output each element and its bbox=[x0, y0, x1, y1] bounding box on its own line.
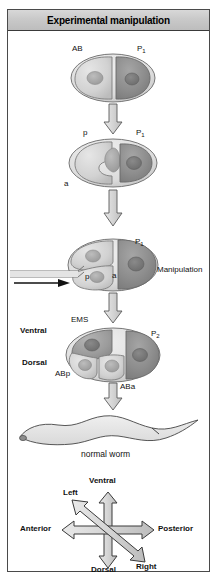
label-p1: P1 bbox=[137, 45, 146, 53]
p2-nucleus bbox=[133, 349, 148, 362]
ems-nucleus bbox=[85, 339, 100, 351]
label-p1-stage3: P1 bbox=[135, 238, 144, 246]
axis-compass bbox=[62, 492, 154, 568]
injection-arrow bbox=[14, 279, 70, 287]
abp-nucleus bbox=[79, 360, 92, 371]
label-ab: AB bbox=[72, 45, 83, 53]
label-aba: ABa bbox=[120, 383, 135, 391]
worm-body bbox=[20, 416, 198, 445]
aba-nucleus bbox=[105, 360, 119, 372]
label-dorsal-stage4: Dorsal bbox=[22, 359, 47, 367]
label-a-anterior-stage2: a bbox=[64, 180, 68, 188]
label-a-anterior-stage3: a bbox=[112, 272, 116, 280]
label-manipulation: Manipulation bbox=[157, 266, 202, 274]
axis-label-anterior: Anterior bbox=[20, 525, 51, 533]
stage-two-cell-embryo bbox=[71, 54, 155, 102]
normal-worm-illustration bbox=[20, 416, 199, 445]
label-p1-stage2-sub: 1 bbox=[141, 132, 144, 138]
label-p2-sub: 2 bbox=[156, 333, 159, 339]
diagram-canvas bbox=[0, 0, 218, 581]
ab-daughter-lower-nucleus bbox=[90, 272, 104, 283]
label-abp: ABp bbox=[55, 370, 70, 378]
label-p1-stage3-sub: 1 bbox=[140, 241, 143, 247]
stage-manipulation bbox=[10, 239, 158, 291]
label-ems: EMS bbox=[71, 316, 88, 324]
arrow-stage3-to-stage4 bbox=[104, 293, 122, 323]
ab-daughter-upper-nucleus bbox=[86, 250, 101, 262]
axis-label-dorsal: Dorsal bbox=[91, 566, 116, 574]
label-p1-stage2: P1 bbox=[136, 129, 145, 137]
p1-nucleus-3 bbox=[128, 257, 144, 271]
label-p1-sub: 1 bbox=[142, 48, 145, 54]
ab-nucleus bbox=[87, 72, 103, 85]
p1-nucleus bbox=[125, 73, 139, 85]
worm-head bbox=[20, 435, 27, 440]
label-ventral-stage4: Ventral bbox=[20, 327, 47, 335]
stage-ab-dividing bbox=[69, 139, 157, 187]
caption-normal-worm: normal worm bbox=[81, 450, 130, 459]
arrow-stage2-to-stage3 bbox=[104, 190, 122, 226]
axis-label-ventral: Ventral bbox=[89, 477, 116, 485]
figure-panel: Experimental manipulation bbox=[0, 0, 218, 581]
label-p-posterior-stage3: p bbox=[85, 273, 89, 281]
label-p2: P2 bbox=[151, 330, 160, 338]
stage-four-cell-embryo bbox=[66, 328, 160, 382]
axis-label-right: Right bbox=[136, 563, 156, 571]
axis-label-left: Left bbox=[63, 489, 78, 497]
arrow-stage1-to-stage2 bbox=[104, 104, 122, 134]
axis-label-posterior: Posterior bbox=[158, 525, 193, 533]
label-p-posterior-stage2: p bbox=[83, 129, 87, 137]
p1-nucleus-2 bbox=[127, 157, 142, 170]
